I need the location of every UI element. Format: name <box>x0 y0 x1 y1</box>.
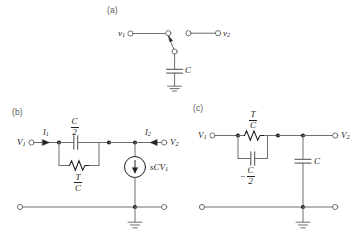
terminal-c-bottom-right <box>333 204 338 209</box>
panel-c-circuit <box>199 131 337 228</box>
current-label-b-i2-sub: 2 <box>148 131 151 137</box>
ground-symbol-c <box>296 222 310 228</box>
component-label-c-negative-capacitor-fraction: C 2 <box>247 166 255 186</box>
node-label-a-v2-sub: 2 <box>227 31 230 38</box>
component-label-c-shunt-capacitor: C <box>314 157 320 166</box>
node-label-a-v1: v1 <box>118 29 125 39</box>
ground-symbol-b <box>128 222 142 228</box>
component-label-c-resistor: T C <box>249 110 257 130</box>
circuit-figure <box>0 0 363 247</box>
minus-sign-icon: − <box>240 171 245 181</box>
panel-a-circuit <box>128 31 221 91</box>
node-label-c-v2-sub: 2 <box>347 133 350 140</box>
resistor-b-zigzag <box>70 161 90 170</box>
component-label-b-resistor-denominator: C <box>74 184 82 193</box>
node-label-a-v1-sub: 1 <box>122 31 125 38</box>
switch-right-contact-a <box>186 31 191 36</box>
terminal-b-v1 <box>29 140 34 145</box>
node-label-c-v1: V1 <box>198 131 207 141</box>
component-label-a-capacitor: C <box>185 66 191 75</box>
current-arrow-b-i1 <box>43 140 50 146</box>
component-label-c-negative-capacitor: − C 2 <box>240 166 255 186</box>
resistor-c-zigzag <box>245 131 265 140</box>
component-label-c-negative-capacitor-denominator: 2 <box>247 177 254 186</box>
node-label-c-v2: V2 <box>341 131 350 141</box>
switch-blade-arrow-a <box>169 36 173 41</box>
panel-label-c: (c) <box>193 103 203 113</box>
node-label-c-v1-sub: 1 <box>204 133 207 140</box>
terminal-b-bottom-right <box>162 204 167 209</box>
current-arrow-b-i2 <box>150 140 157 146</box>
component-label-b-current-source-sub: 1 <box>165 165 168 172</box>
node-label-b-v1: V1 <box>17 138 26 148</box>
terminal-b-v2 <box>162 140 167 145</box>
current-label-b-i2: I2 <box>145 128 151 137</box>
current-label-b-i1-sub: 1 <box>46 131 49 137</box>
terminal-c-v2 <box>333 133 338 138</box>
panel-b-circuit <box>17 136 166 228</box>
component-label-b-capacitor: C 2 <box>71 117 79 137</box>
switch-pole-contact-a <box>166 31 171 36</box>
component-label-b-capacitor-numerator: C <box>71 117 79 126</box>
terminal-a-v1 <box>128 31 133 36</box>
ground-symbol-a <box>168 86 182 91</box>
component-label-b-current-source: sCV1 <box>150 163 168 173</box>
switch-lower-contact-a <box>172 49 177 54</box>
component-label-b-current-source-text: sCV <box>150 162 165 172</box>
component-label-c-resistor-numerator: T <box>250 110 257 119</box>
component-label-c-resistor-denominator: C <box>249 121 257 130</box>
terminal-c-v1 <box>210 133 215 138</box>
terminal-b-bottom-left <box>17 204 22 209</box>
terminal-a-v2 <box>215 31 220 36</box>
panel-label-b: (b) <box>12 107 23 117</box>
panel-label-a: (a) <box>107 5 118 15</box>
component-label-b-resistor: T C <box>74 173 82 193</box>
node-label-b-v2: V2 <box>170 138 179 148</box>
node-label-b-v2-sub: 2 <box>176 140 179 147</box>
current-label-b-i1: I1 <box>43 128 49 137</box>
component-label-b-capacitor-denominator: 2 <box>71 128 78 137</box>
terminal-c-bottom-left <box>199 204 204 209</box>
component-label-b-resistor-numerator: T <box>75 173 82 182</box>
node-label-a-v2: v2 <box>223 29 230 39</box>
component-label-c-negative-capacitor-numerator: C <box>247 166 255 175</box>
node-label-b-v1-sub: 1 <box>23 140 26 147</box>
